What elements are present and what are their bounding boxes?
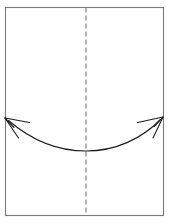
fold-diagram-svg [0,0,173,224]
paper-sheet-outline [6,8,164,216]
fold-diagram-canvas [0,0,173,224]
